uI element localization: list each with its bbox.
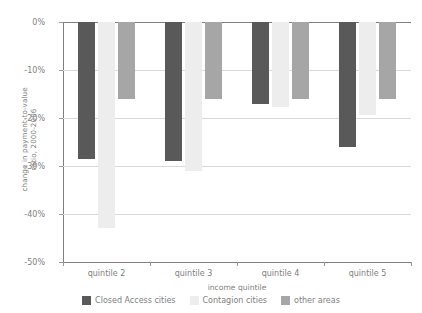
x-tick-label: quintile 3 bbox=[149, 269, 239, 278]
x-tick-label: quintile 2 bbox=[62, 269, 152, 278]
y-axis-title: change in payment-to-value ratio, 2000-2… bbox=[20, 54, 39, 224]
plot-area: 0%-10%-20%-30%-40%-50%quintile 2quintile… bbox=[63, 22, 411, 262]
x-tick-mark bbox=[63, 262, 64, 266]
x-tick-label: quintile 4 bbox=[236, 269, 326, 278]
x-tick-mark bbox=[237, 262, 238, 266]
bar-group bbox=[63, 22, 150, 262]
y-tick-label: 0% bbox=[0, 18, 45, 27]
y-tick-label: -30% bbox=[0, 162, 45, 171]
bar bbox=[359, 22, 376, 115]
bar-group bbox=[324, 22, 411, 262]
x-tick-mark bbox=[324, 262, 325, 266]
bar bbox=[78, 22, 95, 159]
legend-swatch-icon bbox=[281, 296, 290, 305]
bar bbox=[205, 22, 222, 99]
legend-swatch-icon bbox=[190, 296, 199, 305]
bar bbox=[379, 22, 396, 99]
y-tick-label: -50% bbox=[0, 258, 45, 267]
bar bbox=[292, 22, 309, 99]
x-axis-title: income quintile bbox=[63, 283, 411, 292]
bar bbox=[252, 22, 269, 104]
legend-label: Closed Access cities bbox=[95, 296, 175, 305]
bar bbox=[118, 22, 135, 99]
legend-label: other areas bbox=[294, 296, 340, 305]
legend-swatch-icon bbox=[82, 296, 91, 305]
y-tick-label: -10% bbox=[0, 66, 45, 75]
bar-group bbox=[237, 22, 324, 262]
bar bbox=[339, 22, 356, 147]
bar bbox=[272, 22, 289, 107]
y-tick-label: -40% bbox=[0, 210, 45, 219]
legend-label: Contagion cities bbox=[203, 296, 267, 305]
legend-item[interactable]: Contagion cities bbox=[190, 296, 267, 305]
chart-legend: Closed Access citiesContagion citiesothe… bbox=[0, 296, 422, 305]
x-tick-mark bbox=[411, 262, 412, 266]
legend-item[interactable]: Closed Access cities bbox=[82, 296, 175, 305]
bar-chart: change in payment-to-value ratio, 2000-2… bbox=[0, 0, 422, 313]
x-tick-label: quintile 5 bbox=[323, 269, 413, 278]
legend-item[interactable]: other areas bbox=[281, 296, 340, 305]
y-tick-label: -20% bbox=[0, 114, 45, 123]
bar bbox=[98, 22, 115, 228]
bar-group bbox=[150, 22, 237, 262]
bar bbox=[165, 22, 182, 161]
bar bbox=[185, 22, 202, 171]
x-tick-mark bbox=[150, 262, 151, 266]
